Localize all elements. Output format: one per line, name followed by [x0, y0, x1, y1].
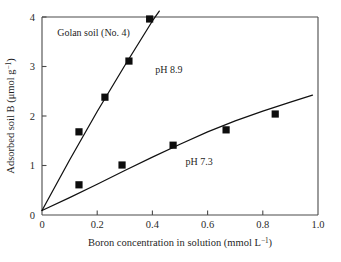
x-tick-label-1: 0.2 [91, 219, 104, 230]
data-point-ph-8-9-2 [125, 57, 132, 64]
data-point-ph-7-3-1 [118, 161, 125, 168]
series-label-ph-7-3: pH 7.3 [186, 156, 213, 167]
data-markers-layer [75, 15, 278, 188]
x-tick-label-0: 0 [39, 219, 44, 230]
chart-figure: 00.20.40.60.81.001234 pH 8.9pH 7.3Golan … [0, 0, 341, 262]
y-tick-label-3: 3 [30, 61, 35, 72]
axis-titles-layer: Boron concentration in solution (mmol L−… [5, 58, 273, 249]
y-axis-title: Adsorbed soil B (μmol g−1) [5, 58, 17, 174]
x-tick-label-3: 0.6 [201, 219, 214, 230]
data-point-ph-7-3-2 [170, 142, 177, 149]
chart-plot-area: 00.20.40.60.81.001234 pH 8.9pH 7.3Golan … [0, 0, 341, 262]
x-tick-label-2: 0.4 [146, 219, 160, 230]
chart-annotation-title: Golan soil (No. 4) [57, 27, 130, 39]
y-tick-label-1: 1 [30, 160, 35, 171]
x-tick-label-4: 0.8 [256, 219, 269, 230]
data-point-ph-7-3-3 [222, 126, 229, 133]
data-point-ph-8-9-1 [101, 94, 108, 101]
data-point-ph-7-3-0 [75, 181, 82, 188]
x-tick-label-5: 1.0 [311, 219, 324, 230]
data-point-ph-8-9-3 [146, 15, 153, 22]
y-tick-label-0: 0 [30, 210, 35, 221]
x-axis-title: Boron concentration in solution (mmol L−… [88, 237, 273, 249]
y-tick-label-2: 2 [30, 111, 35, 122]
fit-curve-ph-8-9 [42, 11, 159, 210]
data-point-ph-8-9-0 [75, 128, 82, 135]
series-annotations-layer: pH 8.9pH 7.3Golan soil (No. 4) [57, 27, 213, 167]
axis-ticks-layer [42, 17, 263, 215]
series-label-ph-8-9: pH 8.9 [155, 64, 182, 75]
axis-tick-labels-layer: 00.20.40.60.81.001234 [30, 12, 325, 230]
y-tick-label-4: 4 [30, 12, 36, 23]
data-point-ph-7-3-4 [272, 110, 279, 117]
